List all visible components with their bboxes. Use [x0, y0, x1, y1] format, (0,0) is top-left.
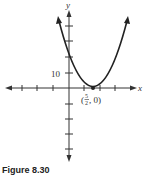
- y-tick-label-10: 10: [51, 69, 61, 79]
- x-axis-right-arrow-icon: [130, 86, 137, 91]
- y-axis-down-arrow-icon: [67, 155, 72, 162]
- svg-text:5: 5: [85, 93, 88, 99]
- svg-text:, 0): , 0): [89, 95, 101, 105]
- vertex-label: ( 5 2 , 0): [81, 93, 101, 106]
- y-axis: [65, 10, 73, 162]
- curve-left-arrow-icon: [56, 16, 62, 24]
- curve-right-arrow-icon: [124, 16, 130, 24]
- vertex-point: [91, 86, 95, 90]
- parabola-figure: x y 10 ( 5 2 , 0): [0, 0, 151, 165]
- y-axis-label: y: [65, 0, 70, 10]
- x-axis: [5, 85, 137, 91]
- x-axis-label: x: [137, 83, 142, 93]
- svg-text:2: 2: [85, 100, 88, 106]
- y-axis-up-arrow-icon: [67, 10, 72, 17]
- svg-text:(: (: [81, 95, 84, 105]
- x-axis-left-arrow-icon: [5, 86, 12, 91]
- figure-caption: Figure 8.30: [2, 165, 50, 175]
